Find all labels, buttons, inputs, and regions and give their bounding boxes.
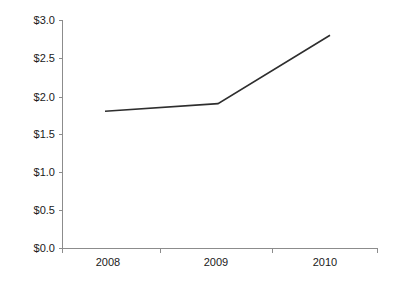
chart-canvas: $0.0 $0.5 $1.0 $1.5 $2.0 $2.5 $3.0 2008 … [0,0,395,282]
y-tick-label-4: $2.0 [34,91,55,103]
line-chart: $0.0 $0.5 $1.0 $1.5 $2.0 $2.5 $3.0 2008 … [0,0,395,282]
y-tick-label-3: $1.5 [34,128,55,140]
chart-background [0,0,395,282]
y-tick-label-6: $3.0 [34,14,55,26]
x-tick-label-2009: 2009 [204,256,228,268]
x-tick-label-2010: 2010 [313,256,337,268]
x-tick-label-2008: 2008 [96,256,120,268]
y-tick-label-1: $0.5 [34,204,55,216]
y-tick-label-2: $1.0 [34,166,55,178]
y-tick-label-0: $0.0 [34,242,55,254]
y-tick-label-5: $2.5 [34,52,55,64]
